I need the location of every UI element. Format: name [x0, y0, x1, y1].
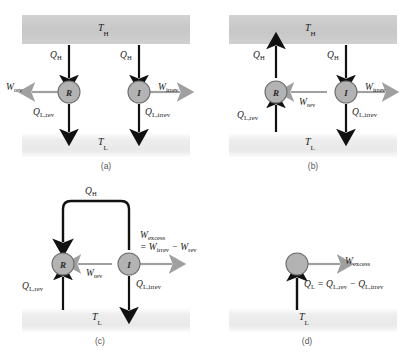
label-w-rev-c: Wrev — [86, 268, 102, 280]
label-qh-left-b: QH — [253, 50, 265, 62]
caption-a: (a) — [86, 161, 126, 171]
label-ql-rev-b: QL,rev — [237, 110, 258, 122]
label-ql-irrev-c: QL,irrev — [136, 279, 161, 291]
label-ql-equation-d: QL = QL,rev − QL,irrev — [304, 279, 383, 291]
panel-d-graphic — [207, 180, 415, 361]
panel-c-graphic: R I — [0, 180, 207, 361]
label-ql-rev-c: QL,rev — [22, 281, 43, 293]
label-w-irrev-a: Wirrev — [158, 82, 178, 94]
device-letter-i-b: I — [343, 88, 348, 98]
caption-d: (d) — [287, 336, 327, 346]
caption-c: (c) — [80, 336, 120, 346]
cold-reservoir-c — [22, 308, 190, 332]
device-combined-d[interactable] — [286, 253, 308, 275]
cold-reservoir-label-a: TL — [98, 136, 108, 150]
hot-reservoir-label-a: TH — [98, 22, 109, 36]
label-qh-left-a: QH — [50, 50, 62, 62]
label-qh-loop-c: QH — [85, 186, 97, 198]
panel-c: R I TL QH Wrev Wexcess = Wirrev − Wrev Q… — [0, 180, 207, 361]
cold-reservoir-label-d: TL — [299, 311, 309, 325]
label-w-excess-c: Wexcess = Wirrev − Wrev — [140, 230, 197, 254]
panel-a: R I TH TL QH QH Wrev Wirrev QL,rev QL,ir… — [0, 0, 207, 180]
label-ql-rev-a: QL,rev — [33, 107, 54, 119]
panel-d: TL Wexcess QL = QL,rev − QL,irrev (d) — [207, 180, 415, 361]
label-w-excess-line1-c: Wexcess — [140, 230, 197, 242]
panel-b: R I TH TL QH QH Wrev Wirrev QL,rev QL,ir… — [207, 0, 415, 180]
label-w-rev-a: Wrev — [6, 82, 22, 94]
label-w-irrev-b: Wirrev — [365, 82, 385, 94]
label-ql-irrev-a: QL,irrev — [145, 107, 170, 119]
device-letter-i-c: I — [126, 260, 131, 270]
label-w-excess-d: Wexcess — [345, 256, 370, 268]
cold-reservoir-label-c: TL — [92, 311, 102, 325]
device-letter-r-b: R — [272, 88, 279, 98]
cold-reservoir-label-b: TL — [305, 136, 315, 150]
label-qh-right-b: QH — [327, 50, 339, 62]
device-letter-r-c: R — [59, 260, 66, 270]
device-letter-i-a: I — [136, 88, 141, 98]
label-w-excess-line2-c: = Wirrev − Wrev — [140, 242, 197, 254]
cold-reservoir-d — [229, 308, 397, 332]
caption-b: (b) — [293, 161, 333, 171]
label-qh-right-a: QH — [120, 50, 132, 62]
hot-reservoir-label-b: TH — [305, 22, 316, 36]
label-w-rev-b: Wrev — [299, 97, 315, 109]
device-letter-r-a: R — [65, 88, 72, 98]
label-ql-irrev-b: QL,irrev — [352, 107, 377, 119]
arrow-qh-loop-c — [63, 201, 129, 250]
